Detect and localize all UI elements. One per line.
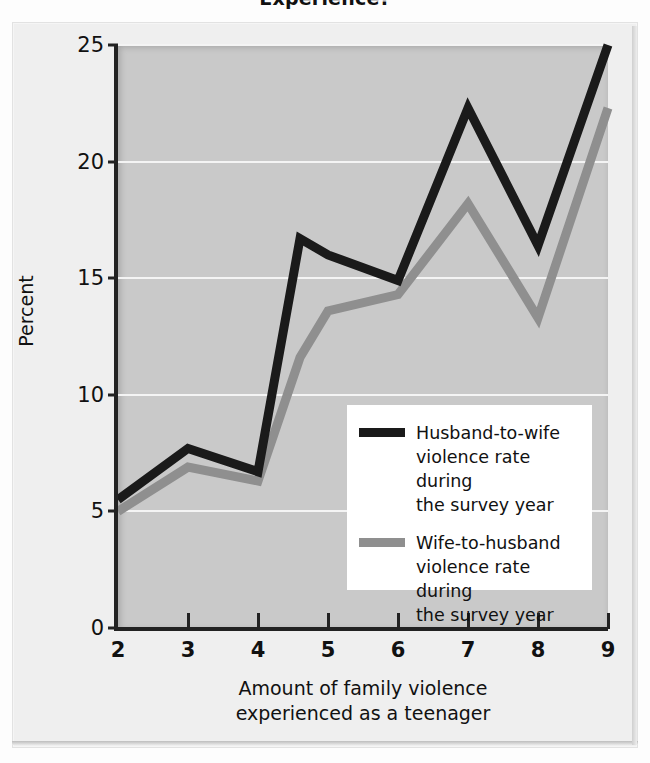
legend-label-line2: violence rate during	[416, 445, 582, 493]
legend-label-line1: Wife-to-husband	[416, 531, 582, 555]
x-axis-title: Amount of family violence experienced as…	[118, 676, 608, 726]
x-axis-title-line1: Amount of family violence	[118, 676, 608, 701]
y-tick-mark	[108, 627, 118, 630]
legend-swatch-husband-to-wife	[359, 428, 405, 437]
chart-legend: Husband-to-wife violence rate during the…	[347, 405, 592, 590]
y-axis-line	[114, 45, 118, 631]
x-tick-label: 3	[168, 638, 208, 662]
x-tick-label: 4	[238, 638, 278, 662]
legend-swatch-wife-to-husband	[359, 538, 405, 547]
x-tick-label: 9	[588, 638, 628, 662]
y-tick-mark	[108, 160, 118, 163]
x-tick-label: 7	[448, 638, 488, 662]
y-tick-mark	[108, 277, 118, 280]
legend-label-line2: violence rate during	[416, 555, 582, 603]
x-tick-mark	[257, 613, 260, 629]
panel-bottom-shadow	[12, 741, 638, 745]
y-tick-label: 5	[58, 499, 104, 523]
legend-label-line3: the survey year	[416, 603, 582, 627]
x-tick-mark	[327, 613, 330, 629]
x-tick-label: 5	[308, 638, 348, 662]
legend-label-husband-to-wife: Husband-to-wife violence rate during the…	[416, 421, 582, 517]
x-axis-title-line2: experienced as a teenager	[118, 701, 608, 726]
legend-item-husband-to-wife: Husband-to-wife violence rate during the…	[359, 421, 582, 517]
chart-figure: Experience? 0510152025 Percent 23456789 …	[0, 0, 650, 763]
y-tick-label: 20	[58, 150, 104, 174]
y-tick-mark	[108, 44, 118, 47]
chart-title: Experience?	[0, 0, 650, 13]
y-tick-mark	[108, 393, 118, 396]
y-tick-label: 0	[58, 616, 104, 640]
x-tick-label-row: 23456789	[0, 638, 650, 668]
y-tick-label: 25	[58, 33, 104, 57]
x-tick-label: 8	[518, 638, 558, 662]
x-tick-mark	[607, 613, 610, 629]
y-tick-label: 10	[58, 383, 104, 407]
y-tick-label: 15	[58, 266, 104, 290]
y-axis-title: Percent	[15, 231, 37, 391]
x-tick-mark	[187, 613, 190, 629]
x-tick-label: 2	[98, 638, 138, 662]
x-tick-label: 6	[378, 638, 418, 662]
legend-label-wife-to-husband: Wife-to-husband violence rate during the…	[416, 531, 582, 627]
legend-label-line1: Husband-to-wife	[416, 421, 582, 445]
y-tick-mark	[108, 510, 118, 513]
legend-label-line3: the survey year	[416, 493, 582, 517]
legend-item-wife-to-husband: Wife-to-husband violence rate during the…	[359, 531, 582, 627]
